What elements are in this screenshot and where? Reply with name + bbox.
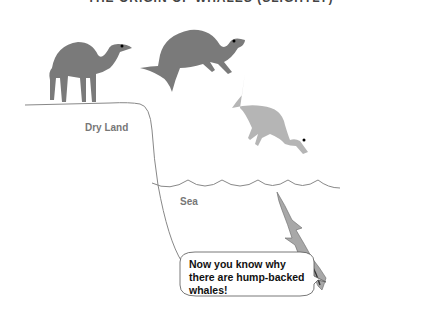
- sea-label: Sea: [180, 196, 198, 207]
- bubble-line: there are hump-backed: [189, 271, 319, 284]
- bubble-line: whales!: [189, 284, 319, 297]
- dry-land-label: Dry Land: [85, 122, 128, 133]
- sea-waves: [152, 180, 340, 188]
- speech-bubble-text: Now you know why there are hump-backed w…: [189, 258, 319, 297]
- camel-leaping-icon: [140, 30, 245, 92]
- camel-diving-icon: [232, 73, 308, 154]
- camel-standing-icon: [49, 42, 132, 102]
- bubble-line: Now you know why: [189, 258, 319, 271]
